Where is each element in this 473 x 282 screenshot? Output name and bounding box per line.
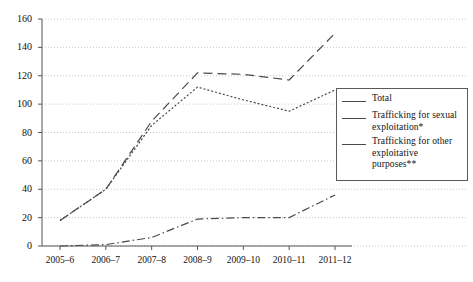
y-tick-label: 40 [2, 184, 32, 194]
legend-label-total: Total [372, 93, 392, 105]
y-tick-label: 100 [2, 99, 32, 109]
legend-label-other-purposes: Trafficking for other exploitative purpo… [372, 136, 463, 171]
y-tick-label: 80 [2, 128, 32, 138]
y-tick-label: 160 [2, 14, 32, 24]
legend-item-sexual-exploitation: Trafficking for sexual exploitation* [341, 110, 463, 133]
legend-line-swatch-sexual-exploitation [341, 113, 367, 124]
legend-label-sexual-exploitation: Trafficking for sexual exploitation* [372, 110, 463, 133]
y-axis-ticks [38, 19, 42, 246]
y-tick-label: 0 [2, 241, 32, 251]
chart-legend: Total Trafficking for sexual exploitatio… [336, 88, 468, 181]
series-line-sexual-exploitation [60, 87, 335, 220]
y-tick-label: 140 [2, 42, 32, 52]
legend-item-other-purposes: Trafficking for other exploitative purpo… [341, 136, 463, 171]
y-tick-label: 20 [2, 213, 32, 223]
line-chart: 020406080100120140160 2005–62006–72007–8… [0, 0, 473, 282]
legend-item-total: Total [341, 93, 463, 107]
y-tick-label: 120 [2, 71, 32, 81]
data-series-layer [60, 33, 335, 246]
x-axis-ticks [60, 246, 335, 250]
legend-line-swatch-total [341, 96, 367, 107]
x-tick-label: 2011–12 [305, 255, 365, 265]
legend-line-swatch-other-purposes [341, 139, 367, 150]
y-tick-label: 60 [2, 156, 32, 166]
series-line-other-purposes [60, 195, 335, 246]
